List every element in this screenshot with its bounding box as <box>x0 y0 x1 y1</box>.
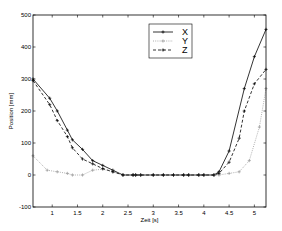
y-tick-label: 100 <box>21 140 32 146</box>
y-tick-label: 500 <box>21 12 32 18</box>
x-tick-label: 1.5 <box>73 210 82 216</box>
y-tick-label: 400 <box>21 44 32 50</box>
legend-label: Z <box>182 45 188 55</box>
x-axis-label: Zeit [s] <box>140 217 158 223</box>
y-axis-label: Position [mm] <box>8 92 14 129</box>
y-tick-label: 200 <box>21 108 32 114</box>
x-tick-label: 1 <box>51 210 55 216</box>
y-tick-label: 300 <box>21 76 32 82</box>
x-tick-label: 3.5 <box>174 210 183 216</box>
line-chart: 11.522.533.544.55-1000100200300400500 XY… <box>0 0 282 231</box>
x-tick-label: 3 <box>152 210 156 216</box>
legend: XYZ <box>149 24 192 58</box>
y-tick-label: -100 <box>19 204 32 210</box>
x-tick-label: 2 <box>101 210 105 216</box>
x-tick-label: 4 <box>202 210 206 216</box>
x-tick-label: 2.5 <box>124 210 133 216</box>
x-tick-label: 4.5 <box>225 210 234 216</box>
x-tick-label: 5 <box>253 210 257 216</box>
y-tick-label: 0 <box>28 172 32 178</box>
